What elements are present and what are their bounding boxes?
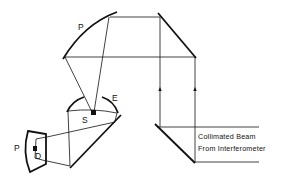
- interferometer-flat-mirror: [155, 124, 195, 163]
- ray-e-left: [68, 111, 70, 166]
- source-block: [91, 110, 96, 115]
- arrow-up-icon: [193, 87, 196, 91]
- ray-to-source-1: [65, 57, 92, 112]
- caption-line-1: Collimated Beam: [198, 132, 256, 141]
- label-source: S: [82, 115, 88, 125]
- upper-flat-mirror: [158, 13, 196, 58]
- label-ellipsoid-mirror: E: [112, 93, 118, 103]
- lower-flat-mirror: [70, 115, 121, 168]
- caption-line-2: From Interferometer: [198, 144, 266, 153]
- arrow-up-icon: [158, 87, 161, 91]
- ray-to-detector-top: [47, 122, 115, 137]
- label-upper-mirror: P: [78, 22, 84, 32]
- optical-diagram: P E S P D Collimated Beam From Interfero…: [0, 0, 303, 179]
- label-detector-mirror: P: [14, 143, 20, 153]
- ray-to-source-2: [94, 17, 109, 112]
- label-detector: D: [35, 151, 41, 161]
- ray-to-detector-bottom: [47, 161, 70, 166]
